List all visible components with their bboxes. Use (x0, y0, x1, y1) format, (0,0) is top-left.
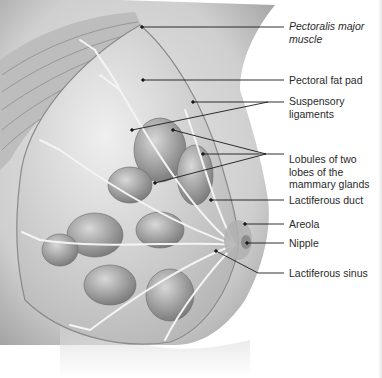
leader-dot (246, 242, 249, 245)
leader-dot (215, 250, 218, 253)
leader-dot (172, 129, 175, 132)
leader-dot (202, 153, 205, 156)
label-lactiferous-duct: Lactiferous duct (289, 194, 363, 207)
leader-dot (142, 79, 145, 82)
leader-dot (210, 199, 213, 202)
leader-dot (141, 26, 144, 29)
label-suspensory-ligaments: Suspensory ligaments (289, 95, 344, 120)
breast-anatomy-diagram: Pectoralis major muscle Pectoral fat pad… (0, 0, 382, 378)
page-edge (378, 0, 382, 378)
label-lobules: Lobules of two lobes of the mammary glan… (289, 153, 370, 191)
label-nipple: Nipple (289, 237, 319, 250)
leader-dot (244, 223, 247, 226)
leader-dot (192, 101, 195, 104)
label-areola: Areola (289, 218, 319, 231)
label-lactiferous-sinus: Lactiferous sinus (289, 267, 368, 280)
leader-dot (131, 129, 134, 132)
leader-dot (154, 182, 157, 185)
label-pectoralis-major: Pectoralis major muscle (289, 20, 364, 45)
label-pectoral-fat-pad: Pectoral fat pad (289, 74, 363, 87)
